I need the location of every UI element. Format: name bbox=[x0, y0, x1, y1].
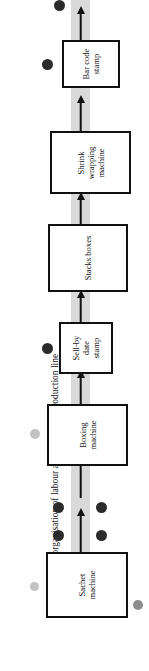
flow-arrow-shrink-to-barcode bbox=[72, 95, 89, 133]
worker-dot-dark-barcode-left bbox=[42, 59, 53, 70]
station-sell-by-date-stamp[interactable]: Sell-by date stamp bbox=[59, 322, 113, 374]
figure-4-5: Sachet machine Boxing machine Sell-by da… bbox=[0, 0, 149, 671]
flow-arrow-stacks-to-shrink bbox=[72, 192, 89, 224]
station-label: Bar code stamp bbox=[81, 49, 101, 80]
station-sachet-machine[interactable]: Sachet machine bbox=[46, 552, 128, 618]
worker-dot-grey-boxing-left bbox=[30, 429, 40, 439]
worker-dot-grey-sachet-left bbox=[30, 582, 39, 591]
worker-dot-dark-outlet-left bbox=[54, 0, 65, 11]
worker-dot-mid-sachet-right bbox=[133, 600, 143, 610]
station-stacks-boxes[interactable]: Stacks boxes bbox=[48, 224, 128, 292]
station-label: Sell-by date stamp bbox=[71, 336, 102, 361]
station-label: Shrink wrapping machine bbox=[75, 146, 106, 178]
flow-arrow-outlet bbox=[72, 6, 89, 40]
worker-dot-dark-sellby-left bbox=[42, 343, 53, 354]
flow-arrow-sellby-to-stacks bbox=[72, 290, 89, 322]
station-label: Sachet machine bbox=[77, 570, 97, 599]
station-bar-code-stamp[interactable]: Bar code stamp bbox=[62, 40, 120, 88]
station-boxing-machine[interactable]: Boxing machine bbox=[47, 404, 128, 466]
station-shrink-wrapping-machine[interactable]: Shrink wrapping machine bbox=[50, 131, 131, 194]
worker-dot-dark-link-right-upper bbox=[96, 502, 107, 513]
flow-arrow-inlet bbox=[72, 508, 89, 552]
worker-dot-dark-link-left-upper bbox=[53, 502, 64, 513]
flow-arrow-boxing-to-sellby bbox=[72, 370, 89, 404]
station-label: Boxing machine bbox=[77, 420, 97, 449]
station-label: Stacks boxes bbox=[83, 236, 93, 281]
figure-caption: Figure 4.5: The organisation of labour a… bbox=[49, 4, 61, 618]
worker-dot-dark-link-left-lower bbox=[53, 530, 64, 541]
worker-dot-dark-link-right-lower bbox=[96, 530, 107, 541]
